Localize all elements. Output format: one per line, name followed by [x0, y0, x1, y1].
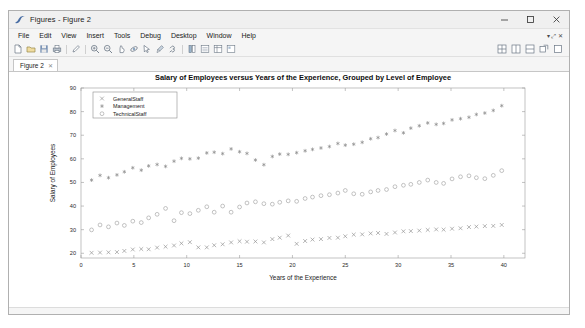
- menu-bar: File Edit View Insert Tools Debug Deskto…: [9, 29, 569, 42]
- toolbar-separator: [85, 45, 86, 54]
- tab-close-icon[interactable]: ✕: [48, 63, 53, 69]
- menu-item-file[interactable]: File: [13, 29, 34, 42]
- zoom-in-icon[interactable]: [89, 43, 101, 55]
- series-technicalstaff: [90, 169, 504, 232]
- menu-item-insert[interactable]: Insert: [81, 29, 109, 42]
- scatter-plot[interactable]: Salary of Employees versus Years of the …: [9, 72, 569, 304]
- menu-item-desktop[interactable]: Desktop: [166, 29, 202, 42]
- open-file-icon[interactable]: [25, 43, 37, 55]
- title-bar: Figures - Figure 2: [9, 11, 569, 29]
- menu-item-tools[interactable]: Tools: [109, 29, 135, 42]
- chart-title: Salary of Employees versus Years of the …: [155, 73, 451, 82]
- link-plot-icon[interactable]: [167, 43, 179, 55]
- legend-label: Management: [113, 103, 145, 109]
- menu-item-view[interactable]: View: [56, 29, 81, 42]
- toolbar-separator: [182, 45, 183, 54]
- menu-item-window[interactable]: Window: [202, 29, 237, 42]
- tile-layout-icon[interactable]: [496, 43, 508, 55]
- menu-item-debug[interactable]: Debug: [135, 29, 166, 42]
- y-axis-label: Salary of Employees: [49, 144, 57, 203]
- figure-window: Figures - Figure 2 File Edit View Insert…: [8, 10, 570, 315]
- y-tick-label: 20: [70, 250, 76, 256]
- legend-label: GeneralStaff: [113, 96, 144, 102]
- y-tick-label: 50: [70, 179, 76, 185]
- x-axis-label: Years of the Experience: [269, 274, 337, 282]
- brush-icon[interactable]: [154, 43, 166, 55]
- x-tick-label: 5: [132, 262, 135, 268]
- y-tick-label: 30: [70, 227, 76, 233]
- y-tick-label: 60: [70, 156, 76, 162]
- menubar-overflow-icons[interactable]: ▾ ⤢ ✕: [547, 32, 569, 40]
- rotate-3d-icon[interactable]: [128, 43, 140, 55]
- legend-label: TechnicalStaff: [113, 111, 147, 117]
- save-figure-icon[interactable]: [38, 43, 50, 55]
- figure-bottom-edge: [9, 307, 569, 314]
- tab-label: Figure 2: [20, 62, 44, 69]
- maximize-button[interactable]: [517, 11, 543, 28]
- series-generalstaff: [90, 223, 504, 255]
- dock-icon[interactable]: [552, 43, 564, 55]
- x-tick-label: 25: [342, 262, 348, 268]
- menu-item-edit[interactable]: Edit: [34, 29, 56, 42]
- matlab-figure-icon: [14, 14, 26, 26]
- two-pane-layout-icon[interactable]: [510, 43, 522, 55]
- x-tick-label: 35: [448, 262, 454, 268]
- print-figure-icon[interactable]: [51, 43, 63, 55]
- edit-plot-icon[interactable]: [70, 43, 82, 55]
- y-tick-label: 80: [70, 109, 76, 115]
- x-tick-label: 20: [289, 262, 295, 268]
- figure-toolbar: [9, 42, 569, 57]
- y-tick-label: 40: [70, 203, 76, 209]
- pan-icon[interactable]: [115, 43, 127, 55]
- data-cursor-icon[interactable]: [141, 43, 153, 55]
- x-tick-label: 0: [79, 262, 82, 268]
- x-tick-label: 30: [395, 262, 401, 268]
- toolbar-right-group: [496, 43, 569, 55]
- figure-canvas[interactable]: Salary of Employees versus Years of the …: [9, 71, 569, 307]
- x-tick-label: 40: [501, 262, 507, 268]
- zoom-out-icon[interactable]: [102, 43, 114, 55]
- window-title: Figures - Figure 2: [30, 15, 91, 24]
- tab-figure-2[interactable]: Figure 2 ✕: [13, 59, 58, 71]
- new-figure-icon[interactable]: [12, 43, 24, 55]
- legend-icon[interactable]: [199, 43, 211, 55]
- x-tick-label: 15: [236, 262, 242, 268]
- figure-palette-icon[interactable]: [225, 43, 237, 55]
- toolbar-separator: [66, 45, 67, 54]
- minimize-button[interactable]: [491, 11, 517, 28]
- menu-item-help[interactable]: Help: [236, 29, 260, 42]
- y-tick-label: 90: [70, 85, 76, 91]
- undock-icon[interactable]: [538, 43, 550, 55]
- figure-tab-strip: Figure 2 ✕: [9, 57, 569, 71]
- colorbar-icon[interactable]: [186, 43, 198, 55]
- plot-browser-icon[interactable]: [212, 43, 224, 55]
- y-tick-label: 70: [70, 132, 76, 138]
- window-controls: [491, 11, 569, 28]
- close-button[interactable]: [543, 11, 569, 28]
- stack-layout-icon[interactable]: [524, 43, 536, 55]
- x-tick-label: 10: [184, 262, 190, 268]
